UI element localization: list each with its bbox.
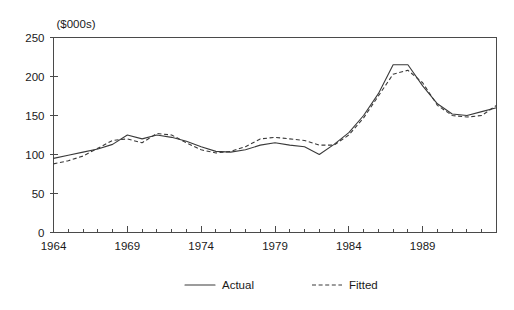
y-tick-label: 100 — [25, 149, 44, 161]
y-tick-label: 150 — [25, 110, 44, 122]
y-tick-label: 0 — [38, 227, 44, 239]
x-tick-label: 1964 — [41, 240, 67, 252]
x-tick-label: 1979 — [262, 240, 288, 252]
x-tick-label: 1989 — [410, 240, 436, 252]
x-tick-label: 1984 — [336, 240, 362, 252]
y-tick-label: 50 — [32, 188, 45, 200]
y-axis: 050100150200250 — [25, 32, 57, 239]
line-chart-figure: 050100150200250 196419691974197919841989… — [0, 0, 514, 310]
y-tick-label: 200 — [25, 71, 44, 83]
data-series-group — [54, 65, 497, 164]
x-tick-label: 1974 — [188, 240, 214, 252]
legend-label-fitted: Fitted — [349, 279, 378, 291]
plot-area — [54, 38, 497, 233]
y-tick-label: 250 — [25, 32, 44, 44]
x-axis: 196419691974197919841989 — [41, 226, 497, 252]
series-line-actual — [54, 65, 497, 159]
chart-legend: ActualFitted — [185, 279, 378, 291]
legend-label-actual: Actual — [222, 279, 254, 291]
plot-frame — [54, 38, 497, 233]
series-line-fitted — [54, 70, 497, 164]
x-tick-label: 1969 — [115, 240, 141, 252]
y-axis-label: ($000s) — [57, 18, 96, 30]
